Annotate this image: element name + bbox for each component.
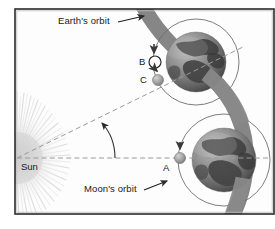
diagram-content: [0, 0, 274, 226]
astronomy-diagram-canvas: [0, 0, 275, 229]
label-point-c: C: [140, 75, 147, 85]
moon-position-b: [149, 56, 161, 68]
motion-arrow-b-to-c: [156, 70, 157, 71]
figure-root: Earth's orbit Moon's orbit Sun B C A: [0, 0, 275, 229]
label-point-b: B: [139, 57, 145, 67]
label-point-a: A: [163, 163, 169, 173]
moon-position-a: [175, 153, 186, 164]
label-earths-orbit: Earth's orbit: [58, 16, 110, 26]
label-moons-orbit: Moon's orbit: [84, 184, 137, 194]
moon-position-c: [153, 75, 164, 86]
label-sun: Sun: [21, 162, 38, 172]
